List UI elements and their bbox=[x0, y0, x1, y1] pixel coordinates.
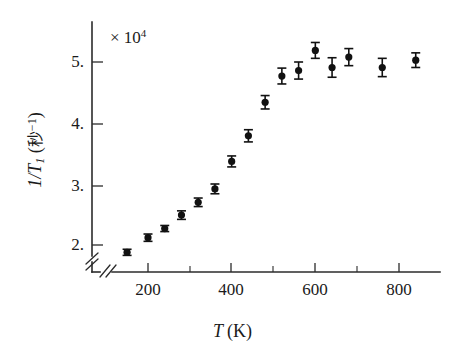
data-point bbox=[123, 249, 132, 256]
y-axis-close-paren: ) bbox=[25, 112, 45, 118]
data-point bbox=[144, 234, 153, 241]
y-tick-label-3: 3. bbox=[44, 177, 84, 194]
data-point bbox=[277, 68, 286, 84]
x-tick-label-800: 800 bbox=[369, 281, 429, 298]
x-axis-title: T (K) bbox=[0, 322, 465, 340]
x-tick-label-200: 200 bbox=[118, 281, 178, 298]
y-axis-prefix: 1/ bbox=[25, 174, 45, 188]
y-tick-label-4: 4. bbox=[44, 115, 84, 132]
data-point bbox=[328, 58, 337, 78]
x-tick-marks bbox=[148, 263, 399, 272]
scale-annotation: × 104 bbox=[110, 28, 146, 46]
data-point bbox=[378, 58, 387, 76]
y-axis-unit-cjk: 秒 bbox=[26, 131, 45, 147]
scale-base-text: × 10 bbox=[110, 28, 141, 47]
data-point bbox=[294, 62, 303, 79]
data-point bbox=[411, 53, 420, 68]
y-axis-title: 1/T1 (秒−1) bbox=[26, 70, 46, 230]
y-axis-open-paren: ( bbox=[25, 147, 45, 158]
data-point bbox=[194, 198, 203, 207]
x-axis-symbol: T bbox=[213, 321, 223, 341]
data-point bbox=[210, 184, 219, 194]
data-point bbox=[227, 156, 236, 167]
y-axis-unit-exponent: −1 bbox=[25, 118, 39, 131]
data-point bbox=[311, 42, 320, 58]
y-axis-symbol: T bbox=[25, 164, 45, 174]
data-point bbox=[261, 96, 270, 109]
x-axis-unit: (K) bbox=[227, 321, 252, 341]
data-point bbox=[244, 130, 253, 142]
x-axis-break-icon bbox=[100, 265, 116, 277]
x-tick-label-600: 600 bbox=[285, 281, 345, 298]
data-point bbox=[160, 225, 169, 232]
y-tick-label-2: 2. bbox=[44, 236, 84, 253]
y-axis-subscript: 1 bbox=[33, 158, 47, 164]
scale-exponent-text: 4 bbox=[141, 27, 147, 39]
y-tick-label-5: 5. bbox=[44, 53, 84, 70]
y-tick-marks bbox=[92, 62, 103, 245]
figure-container: 5. 4. 3. 2. 200 400 600 800 × 104 T (K) … bbox=[0, 0, 465, 359]
data-points-layer bbox=[123, 42, 421, 255]
data-point bbox=[177, 211, 186, 220]
data-point bbox=[344, 49, 353, 66]
x-tick-label-400: 400 bbox=[201, 281, 261, 298]
